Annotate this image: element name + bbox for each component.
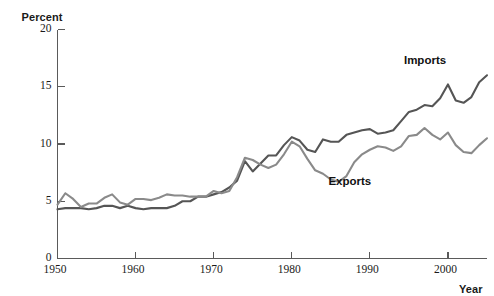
chart-container: Percent Year Imports Exports 05101520195… [0, 0, 494, 296]
x-tick-label: 2000 [434, 263, 457, 275]
y-tick-label: 10 [18, 137, 52, 149]
x-tick-label: 1960 [122, 263, 145, 275]
x-axis-ticks [136, 252, 448, 259]
y-tick-label: 15 [18, 79, 52, 91]
x-tick-label: 1990 [356, 263, 379, 275]
x-tick-label: 1950 [44, 263, 67, 275]
x-tick-label: 1970 [200, 263, 223, 275]
x-axis-title: Year [459, 283, 483, 295]
line-chart-canvas [0, 0, 494, 296]
data-series-group [58, 75, 488, 209]
series-line-exports [58, 128, 488, 207]
y-tick-label: 5 [18, 194, 52, 206]
y-axis-ticks [58, 30, 65, 202]
x-tick-label: 1980 [278, 263, 301, 275]
y-tick-label: 0 [18, 251, 52, 263]
series-label-exports: Exports [328, 175, 371, 187]
y-axis-title: Percent [22, 11, 63, 23]
y-tick-label: 20 [18, 22, 52, 34]
series-label-imports: Imports [404, 54, 446, 66]
series-line-imports [58, 75, 488, 209]
